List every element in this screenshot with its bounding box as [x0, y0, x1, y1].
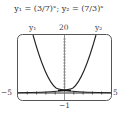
plot-area	[0, 0, 118, 116]
curve-y1	[33, 35, 111, 93]
curve-y2	[18, 35, 96, 93]
